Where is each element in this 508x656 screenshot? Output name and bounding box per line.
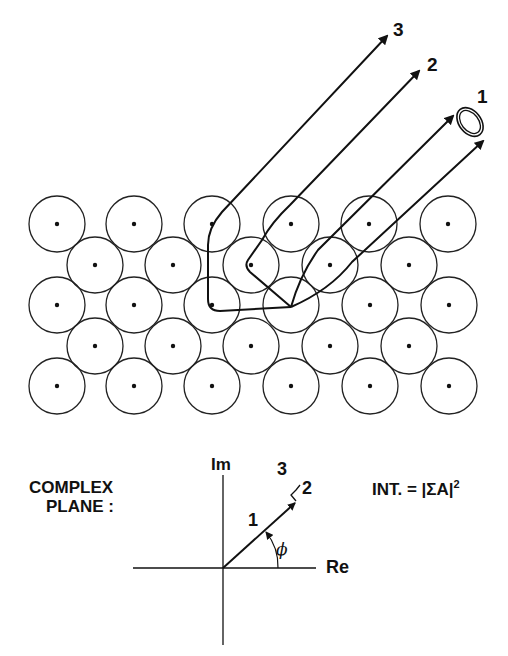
atom-lattice	[29, 196, 477, 414]
intensity-exponent: 2	[454, 478, 460, 490]
atom-center-dot	[447, 303, 451, 307]
atom-center-dot	[407, 263, 411, 267]
vector-2-3	[291, 485, 300, 501]
intensity-formula-text: INT. = |ΣA|	[372, 480, 454, 499]
path-2-ray	[246, 71, 419, 307]
scattering-diagram	[0, 0, 508, 656]
vector-2-label: 2	[302, 478, 312, 499]
vector-3-label: 3	[277, 459, 287, 480]
atom-center-dot	[210, 384, 214, 388]
path-3-ray	[208, 36, 387, 311]
atom-center-dot	[368, 384, 372, 388]
atom-center-dot	[132, 303, 136, 307]
atom-center-dot	[249, 344, 253, 348]
atom-centers	[55, 222, 451, 388]
atom-center-dot	[407, 344, 411, 348]
atom-center-dot	[367, 222, 371, 226]
path-3-label: 3	[393, 19, 404, 41]
atom-center-dot	[249, 263, 253, 267]
atom-center-dot	[93, 263, 97, 267]
atom-center-dot	[368, 303, 372, 307]
atom-center-dot	[328, 344, 332, 348]
path-1-ray-upper	[291, 116, 453, 307]
path-2-label: 2	[427, 54, 438, 76]
atom-center-dot	[171, 263, 175, 267]
atom-center-dot	[171, 344, 175, 348]
atom-center-dot	[328, 263, 332, 267]
atom-center-dot	[132, 384, 136, 388]
atom-center-dot	[446, 222, 450, 226]
atom-center-dot	[93, 344, 97, 348]
complex-plane-title-line2: PLANE :	[46, 497, 114, 517]
atom-center-dot	[132, 222, 136, 226]
atom-center-dot	[447, 384, 451, 388]
re-axis-label: Re	[326, 557, 349, 578]
atom-center-dot	[289, 222, 293, 226]
path-1-label: 1	[477, 86, 488, 108]
atom-center-dot	[55, 222, 59, 226]
atom-center-dot	[55, 303, 59, 307]
im-axis-label: Im	[211, 455, 231, 475]
intensity-formula: INT. = |ΣA|2	[372, 478, 460, 500]
phi-label: ϕ	[276, 539, 288, 559]
complex-plane-title-line1: COMPLEX	[29, 478, 113, 498]
atom-center-dot	[55, 384, 59, 388]
vector-1-label: 1	[248, 510, 258, 531]
detector-ring-icon	[451, 103, 488, 142]
atom-center-dot	[289, 384, 293, 388]
